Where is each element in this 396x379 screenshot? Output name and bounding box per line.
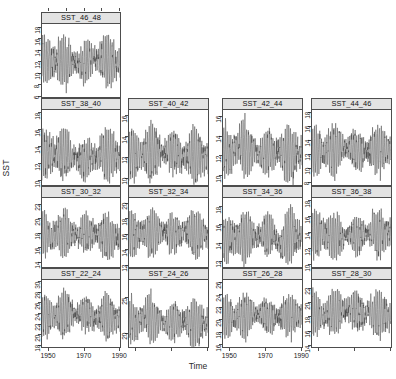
series-line [42, 208, 120, 260]
panel-plot-area [222, 197, 303, 268]
y-tick-label: 18 [34, 112, 41, 119]
y-tick-label: 8 [304, 182, 311, 186]
x-tick-label: 1950 [222, 352, 237, 360]
panel-strip: SST_36_38 [311, 186, 392, 197]
y-tick-label: 18 [215, 332, 222, 339]
y-tick-label: 14 [215, 136, 222, 143]
y-tick-label: 20 [215, 319, 222, 326]
y-tick-label: 20 [121, 203, 128, 210]
y-tick-label: 16 [34, 129, 41, 136]
y-tick-label: 26 [34, 302, 41, 309]
x-tick [318, 348, 319, 351]
x-axis-col1: 195019701990 [41, 348, 121, 362]
y-axis-label: SST [1, 146, 11, 190]
panel-plot-area [128, 279, 209, 348]
y-tick-label: 16 [34, 247, 41, 254]
y-tick-label: 24 [34, 313, 41, 320]
y-tick-label: 20 [121, 333, 128, 340]
panel-strip: SST_22_24 [41, 268, 121, 279]
y-tick-label: 16 [304, 216, 311, 223]
y-tick-label: 16 [215, 116, 222, 123]
panel-sst_30_32: SST_30_32 [41, 186, 121, 268]
y-tick-label: 12 [34, 163, 41, 170]
series-line [223, 293, 302, 343]
y-tick-label: 18 [304, 112, 311, 119]
series-line [312, 209, 391, 261]
panel-title: SST_32_34 [149, 188, 189, 196]
y-tick-label: 16 [34, 38, 41, 45]
series-line [42, 127, 120, 183]
panel-plot-area [222, 279, 303, 348]
y-axis-sst_34_36: 12141618 [204, 197, 222, 268]
y-tick-label: 20 [34, 334, 41, 341]
x-tick [390, 348, 391, 351]
y-tick-label: 22 [215, 307, 222, 314]
x-axis-ticks-col2 [128, 348, 209, 353]
y-tick-label: 12 [304, 248, 311, 255]
x-tick [229, 348, 230, 351]
x-tick [265, 348, 266, 351]
trellis-plot: SST Time SST_46_48SST_38_40SST_40_42SST_… [0, 0, 396, 379]
top-x-tick [66, 8, 67, 11]
y-tick-label: 14 [215, 243, 222, 250]
x-tick [207, 348, 208, 351]
y-axis-sst_24_26: 2025 [110, 279, 128, 348]
y-tick-label: 10 [215, 175, 222, 182]
panel-plot-area [41, 109, 121, 186]
y-axis-sst_44_46: 81012141618 [293, 109, 311, 186]
y-tick-label: 10 [121, 178, 128, 185]
panel-plot-area [41, 197, 121, 268]
panel-title: SST_30_32 [61, 188, 101, 196]
x-axis-label: Time [0, 361, 396, 371]
series-line [129, 289, 208, 347]
panel-sst_40_42: SST_40_42 [128, 98, 209, 186]
y-tick-label: 22 [34, 324, 41, 331]
y-tick-label: 12 [121, 265, 128, 272]
y-tick-label: 16 [215, 224, 222, 231]
y-tick-label: 8 [34, 84, 41, 88]
y-tick-label: 16 [121, 115, 128, 122]
x-tick-label: 1990 [294, 352, 309, 360]
y-axis-sst_28_30: 1416182022 [293, 279, 311, 348]
panel-strip: SST_26_28 [222, 268, 303, 279]
panel-sst_42_44: SST_42_44 [222, 98, 303, 186]
panel-strip: SST_24_26 [128, 268, 209, 279]
y-tick-label: 18 [121, 218, 128, 225]
panel-sst_22_24: SST_22_24 [41, 268, 121, 348]
y-tick-label: 20 [304, 302, 311, 309]
y-tick-label: 10 [34, 180, 41, 187]
panel-sst_46_48: SST_46_48 [41, 12, 121, 98]
panel-strip: SST_42_44 [222, 98, 303, 109]
series-line [223, 113, 302, 185]
panel-title: SST_28_30 [332, 270, 372, 278]
y-tick-label: 10 [34, 73, 41, 80]
panel-plot-area [222, 109, 303, 186]
x-axis-col3: 195019701990 [222, 348, 303, 362]
top-x-tick [48, 8, 49, 11]
y-axis-sst_40_42: 10121416 [110, 109, 128, 186]
panel-sst_26_28: SST_26_28 [222, 268, 303, 348]
y-tick-label: 26 [215, 282, 222, 289]
x-tick-label: 1970 [76, 352, 91, 360]
y-tick-label: 16 [304, 126, 311, 133]
y-tick-label: 24 [215, 294, 222, 301]
panel-title: SST_36_38 [332, 188, 372, 196]
panel-title: SST_38_40 [61, 100, 101, 108]
x-tick [119, 348, 120, 351]
y-axis-sst_38_40: 1012141618 [23, 109, 41, 186]
y-axis-sst_26_28: 161820222426 [204, 279, 222, 348]
y-tick-label: 22 [304, 288, 311, 295]
y-tick-label: 6 [34, 96, 41, 100]
panel-strip: SST_46_48 [41, 12, 121, 23]
y-tick-label: 18 [304, 200, 311, 207]
panel-plot-area [311, 109, 392, 186]
y-tick-label: 12 [215, 261, 222, 268]
y-tick-label: 10 [304, 168, 311, 175]
y-tick-label: 18 [304, 316, 311, 323]
y-tick-label: 14 [121, 249, 128, 256]
panel-plot-area [311, 279, 392, 348]
panel-sst_34_36: SST_34_36 [222, 186, 303, 268]
panel-plot-area [311, 197, 392, 268]
panel-plot-area [41, 23, 121, 98]
y-tick-label: 14 [304, 232, 311, 239]
